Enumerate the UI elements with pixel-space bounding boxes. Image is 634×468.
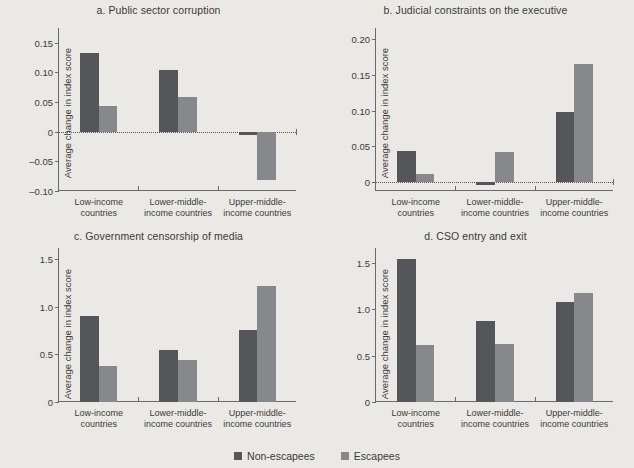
panel-b-title: b. Judicial constraints on the executive <box>317 4 634 16</box>
panel-b-ytick <box>372 75 376 76</box>
panel-a-ytick-label: –0.05 <box>29 156 53 167</box>
panel-d-category-label-2: Upper-middle-income countries <box>529 408 620 430</box>
panel-grid: a. Public sector corruption Average chan… <box>0 0 634 468</box>
bar-c-non-escapees-0 <box>80 316 99 402</box>
panel-d-ytick-label: 0 <box>365 397 370 408</box>
panel-d-x-separator <box>535 397 536 402</box>
panel-c-category-label-2: Upper-middle-income countries <box>212 408 303 430</box>
panel-b-ytick-label: 0 <box>365 177 370 188</box>
panel-d-ytick-label: 0.5 <box>357 350 370 361</box>
category-label-line: Low-income <box>370 408 461 419</box>
bar-d-non-escapees-2 <box>556 302 575 402</box>
panel-a-category-label-2: Upper-middle-income countries <box>212 197 303 219</box>
bar-c-non-escapees-2 <box>239 330 258 402</box>
bar-c-escapees-2 <box>257 286 276 402</box>
panel-c-category-label-1: Lower-middle-income countries <box>132 408 223 430</box>
panel-d-ytick-label: 1.0 <box>357 304 370 315</box>
panel-b-ytick-label: 0.15 <box>352 69 371 80</box>
panel-a-x-separator <box>138 186 139 191</box>
category-label-line: Lower-middle- <box>449 197 540 208</box>
category-label-line: Lower-middle- <box>132 408 223 419</box>
panel-b-plot-area: 0.200.150.100.050Low-incomecountriesLowe… <box>375 28 613 191</box>
panel-a-ytick <box>55 43 59 44</box>
bar-b-escapees-2 <box>574 64 593 182</box>
panel-b-ytick-label: 0.05 <box>352 141 371 152</box>
category-label-line: income countries <box>529 419 620 430</box>
panel-a-category-label-1: Lower-middle-income countries <box>132 197 223 219</box>
panel-a-zero-end-tick <box>296 129 297 135</box>
panel-c-ytick-label: 1.5 <box>40 254 53 265</box>
bar-c-non-escapees-1 <box>159 350 178 402</box>
panel-a-ytick <box>55 72 59 73</box>
category-label-line: countries <box>53 208 144 219</box>
bar-c-escapees-1 <box>178 360 197 402</box>
category-label-line: countries <box>53 419 144 430</box>
panel-a-ytick-label: –0.10 <box>29 186 53 197</box>
panel-b-category-label-1: Lower-middle-income countries <box>449 197 540 219</box>
category-label-line: countries <box>370 419 461 430</box>
bar-d-escapees-0 <box>416 345 435 402</box>
category-label-line: income countries <box>449 419 540 430</box>
panel-b-ytick-label: 0.10 <box>352 105 371 116</box>
bar-b-escapees-1 <box>495 152 514 182</box>
panel-d-category-label-0: Low-incomecountries <box>370 408 461 430</box>
category-label-line: countries <box>370 208 461 219</box>
panel-c-ytick <box>55 354 59 355</box>
legend-item-escapees[interactable]: Escapees <box>341 450 400 462</box>
bar-a-non-escapees-2 <box>239 132 258 135</box>
panel-c-ytick <box>55 259 59 260</box>
category-label-line: income countries <box>529 208 620 219</box>
panel-a-ytick-label: 0.10 <box>35 67 54 78</box>
panel-a-ytick <box>55 161 59 162</box>
category-label-line: Lower-middle- <box>132 197 223 208</box>
bar-b-escapees-0 <box>416 174 435 183</box>
panel-b: b. Judicial constraints on the executive… <box>317 0 634 226</box>
panel-d-ytick <box>372 356 376 357</box>
panel-d: d. CSO entry and exit Average change in … <box>317 226 634 442</box>
category-label-line: Upper-middle- <box>212 197 303 208</box>
legend-label-non-escapees: Non-escapees <box>247 450 315 462</box>
panel-b-ytick <box>372 39 376 40</box>
legend-label-escapees: Escapees <box>354 450 400 462</box>
bar-a-escapees-2 <box>257 132 276 180</box>
panel-c-ytick-label: 0.5 <box>40 349 53 360</box>
bar-b-non-escapees-2 <box>556 112 575 182</box>
panel-b-category-label-2: Upper-middle-income countries <box>529 197 620 219</box>
panel-c-ytick-label: 1.0 <box>40 301 53 312</box>
category-label-line: income countries <box>132 419 223 430</box>
bar-d-escapees-2 <box>574 293 593 402</box>
bar-b-non-escapees-0 <box>397 151 416 183</box>
panel-c: c. Government censorship of media Averag… <box>0 226 317 442</box>
panel-c-plot-area: 1.51.00.50Low-incomecountriesLower-middl… <box>58 248 296 402</box>
panel-c-x-separator <box>218 397 219 402</box>
panel-c-ytick <box>55 402 59 403</box>
panel-a-title: a. Public sector corruption <box>0 4 317 16</box>
category-label-line: Upper-middle- <box>529 408 620 419</box>
legend-item-non-escapees[interactable]: Non-escapees <box>234 450 315 462</box>
panel-d-x-separator <box>455 397 456 402</box>
panel-c-title: c. Government censorship of media <box>0 230 317 242</box>
panel-d-ytick-label: 1.5 <box>357 257 370 268</box>
panel-d-category-label-1: Lower-middle-income countries <box>449 408 540 430</box>
panel-a-ytick-label: 0 <box>48 126 53 137</box>
panel-b-x-axis <box>376 190 613 191</box>
panel-d-ytick <box>372 402 376 403</box>
panel-c-ytick-label: 0 <box>48 397 53 408</box>
category-label-line: income countries <box>449 208 540 219</box>
bar-b-non-escapees-1 <box>476 182 495 185</box>
panel-c-category-label-0: Low-incomecountries <box>53 408 144 430</box>
panel-a-ytick <box>55 102 59 103</box>
category-label-line: Upper-middle- <box>529 197 620 208</box>
panel-d-ytick <box>372 309 376 310</box>
panel-c-x-separator <box>138 397 139 402</box>
panel-a-ytick-label: 0.05 <box>35 97 54 108</box>
category-label-line: income countries <box>212 419 303 430</box>
panel-d-ytick <box>372 263 376 264</box>
bar-d-non-escapees-0 <box>397 259 416 402</box>
panel-a-ytick-label: 0.15 <box>35 37 54 48</box>
panel-d-plot-area: 1.51.00.50Low-incomecountriesLower-middl… <box>375 248 613 402</box>
legend-swatch-icon-non-escapees <box>234 452 242 460</box>
category-label-line: income countries <box>212 208 303 219</box>
category-label-line: Low-income <box>370 197 461 208</box>
panel-a-plot-area: 0.150.100.050–0.05–0.10Low-incomecountri… <box>58 28 296 191</box>
